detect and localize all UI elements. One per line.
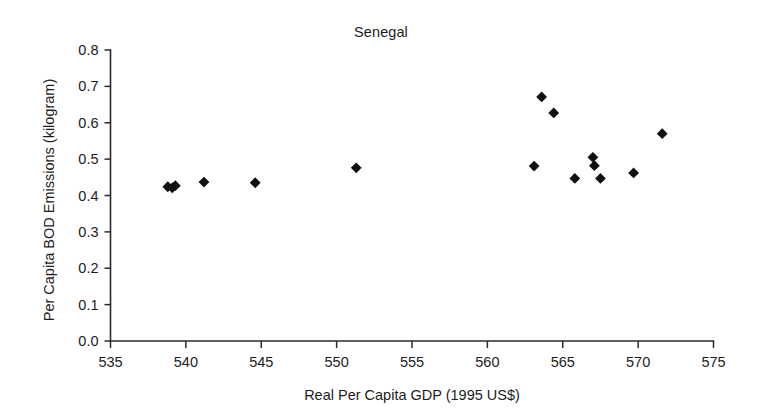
x-tick-label: 535 <box>98 354 122 370</box>
x-tick-label: 545 <box>249 354 273 370</box>
data-points <box>162 92 667 194</box>
data-point-marker <box>657 128 668 139</box>
x-tick-label: 565 <box>551 354 575 370</box>
y-tick-label: 0.4 <box>78 188 98 204</box>
y-tick-label: 0.7 <box>78 78 98 94</box>
y-tick-label: 0.0 <box>78 333 98 349</box>
chart-figure: Senegal Per Capita BOD Emissions (kilogr… <box>0 0 762 419</box>
data-point-marker <box>588 152 599 163</box>
x-tick-label: 575 <box>701 354 725 370</box>
scatter-plot: 0.00.10.20.30.40.50.60.70.8 535540545550… <box>0 0 762 419</box>
data-point-marker <box>589 160 600 171</box>
y-tick-label: 0.1 <box>78 297 98 313</box>
x-tick-labels: 535540545550555560565570575 <box>98 354 725 370</box>
data-point-marker <box>536 92 547 103</box>
x-tick-label: 550 <box>325 354 349 370</box>
data-point-marker <box>529 161 540 172</box>
x-tick-label: 570 <box>626 354 650 370</box>
y-tick-labels: 0.00.10.20.30.40.50.60.70.8 <box>78 42 98 349</box>
x-tick-label: 560 <box>475 354 499 370</box>
x-tick-label: 555 <box>400 354 424 370</box>
data-point-marker <box>351 162 362 173</box>
y-tick-label: 0.8 <box>78 42 98 58</box>
data-point-marker <box>595 173 606 184</box>
y-tick-label: 0.3 <box>78 224 98 240</box>
tick-marks <box>105 50 714 348</box>
y-tick-label: 0.5 <box>78 151 98 167</box>
data-point-marker <box>250 177 261 188</box>
data-point-marker <box>548 108 559 119</box>
data-point-marker <box>628 168 639 179</box>
x-tick-label: 540 <box>174 354 198 370</box>
y-tick-label: 0.6 <box>78 115 98 131</box>
data-point-marker <box>569 173 580 184</box>
y-tick-label: 0.2 <box>78 260 98 276</box>
axis-lines <box>111 50 714 341</box>
data-point-marker <box>199 177 210 188</box>
